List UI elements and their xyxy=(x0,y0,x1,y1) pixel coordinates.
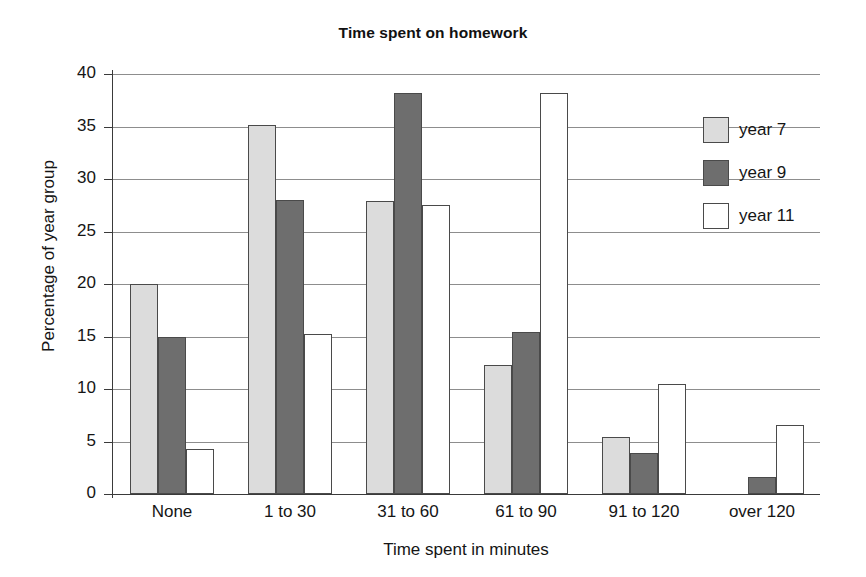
bar-91-to-120-year-9 xyxy=(630,453,658,494)
y-axis-tick xyxy=(104,494,113,495)
x-axis-title: Time spent in minutes xyxy=(112,540,820,560)
y-axis-tick xyxy=(104,179,113,180)
y-axis-title: Percentage of year group xyxy=(39,91,59,421)
gridline xyxy=(112,74,820,75)
bar-chart: Time spent on homework 0510152025303540 … xyxy=(0,0,866,577)
bar-1-to-30-year-7 xyxy=(248,125,276,494)
gridline xyxy=(112,337,820,338)
legend-label: year 9 xyxy=(739,163,786,183)
gridline xyxy=(112,389,820,390)
bar-31-to-60-year-7 xyxy=(366,201,394,494)
y-axis-tick xyxy=(104,74,113,75)
bar-91-to-120-year-11 xyxy=(658,384,686,494)
bar-none-year-7 xyxy=(130,284,158,494)
x-axis-baseline xyxy=(112,494,820,495)
legend-swatch-icon xyxy=(703,203,729,229)
y-axis-tick-label: 5 xyxy=(52,431,96,451)
legend-swatch-icon xyxy=(703,160,729,186)
bar-none-year-9 xyxy=(158,337,186,495)
y-axis-tick xyxy=(104,284,113,285)
bar-none-year-11 xyxy=(186,449,214,494)
bar-1-to-30-year-9 xyxy=(276,200,304,494)
y-axis-tick xyxy=(104,337,113,338)
legend-item-year-11: year 11 xyxy=(703,194,823,237)
x-axis-label-over-120: over 120 xyxy=(692,502,832,522)
legend: year 7year 9year 11 xyxy=(703,108,823,237)
bar-over-120-year-9 xyxy=(748,477,776,494)
legend-label: year 11 xyxy=(739,206,794,226)
y-axis-tick xyxy=(104,442,113,443)
legend-swatch-icon xyxy=(703,117,729,143)
bar-61-to-90-year-11 xyxy=(540,93,568,494)
legend-label: year 7 xyxy=(739,120,786,140)
y-axis-tick xyxy=(104,127,113,128)
gridline xyxy=(112,284,820,285)
bar-over-120-year-11 xyxy=(776,425,804,494)
gridline xyxy=(112,442,820,443)
y-axis-tick-label: 40 xyxy=(52,63,96,83)
chart-title: Time spent on homework xyxy=(0,24,866,42)
legend-item-year-9: year 9 xyxy=(703,151,823,194)
bar-31-to-60-year-11 xyxy=(422,205,450,494)
bar-61-to-90-year-7 xyxy=(484,365,512,494)
bar-91-to-120-year-7 xyxy=(602,437,630,494)
legend-item-year-7: year 7 xyxy=(703,108,823,151)
y-axis-tick xyxy=(104,232,113,233)
bar-61-to-90-year-9 xyxy=(512,332,540,494)
y-axis-tick xyxy=(104,389,113,390)
bar-1-to-30-year-11 xyxy=(304,334,332,494)
bar-31-to-60-year-9 xyxy=(394,93,422,494)
y-axis-tick-label: 0 xyxy=(52,483,96,503)
